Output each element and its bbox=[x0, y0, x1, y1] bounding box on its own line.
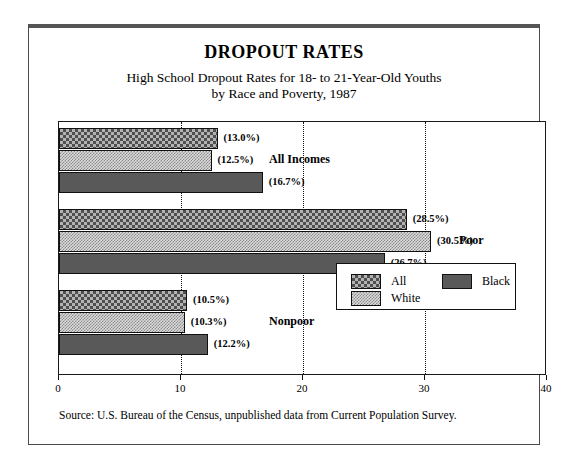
legend-swatch-all bbox=[351, 274, 381, 289]
bar-value-label: (12.2%) bbox=[214, 338, 250, 349]
tick-label-0: 0 bbox=[43, 382, 73, 394]
page-title: DROPOUT RATES bbox=[29, 42, 539, 63]
tick-label-40: 40 bbox=[531, 382, 561, 394]
tick-mark-20 bbox=[302, 375, 303, 380]
chart-legend: All White Black bbox=[336, 263, 516, 310]
bar-poor-all bbox=[59, 209, 407, 230]
bar-all-incomes-all bbox=[59, 128, 218, 149]
tick-label-10: 10 bbox=[165, 382, 195, 394]
chart-subtitle-line-1: High School Dropout Rates for 18- to 21-… bbox=[29, 70, 539, 86]
bar-all-incomes-white bbox=[59, 150, 212, 171]
source-note: Source: U.S. Bureau of the Census, unpub… bbox=[59, 409, 457, 421]
tick-mark-10 bbox=[180, 375, 181, 380]
figure-frame: DROPOUT RATES High School Dropout Rates … bbox=[28, 24, 540, 445]
legend-swatch-white bbox=[351, 291, 381, 306]
bar-value-label: (13.0%) bbox=[224, 132, 260, 143]
group-label-nonpoor: Nonpoor bbox=[269, 314, 314, 329]
group-label-poor: Poor bbox=[459, 233, 484, 248]
legend-label-all: All bbox=[391, 274, 406, 289]
plot-area: (13.0%)(12.5%)(16.7%)All Incomes(28.5%)(… bbox=[58, 121, 546, 375]
tick-mark-40 bbox=[546, 375, 547, 380]
bar-all-incomes-black bbox=[59, 172, 263, 193]
legend-swatch-black bbox=[442, 274, 472, 289]
legend-label-white: White bbox=[391, 291, 420, 306]
bar-poor-white bbox=[59, 231, 431, 252]
bar-value-label: (10.3%) bbox=[191, 316, 227, 327]
bar-value-label: (16.7%) bbox=[269, 176, 305, 187]
bar-nonpoor-all bbox=[59, 290, 187, 311]
legend-label-black: Black bbox=[482, 274, 510, 289]
x-axis-ticks: 010203040 bbox=[58, 375, 546, 395]
bar-value-label: (12.5%) bbox=[218, 154, 254, 165]
bar-nonpoor-black bbox=[59, 334, 208, 355]
bar-nonpoor-white bbox=[59, 312, 185, 333]
chart-subtitle-line-2: by Race and Poverty, 1987 bbox=[29, 86, 539, 102]
group-label-all-incomes: All Incomes bbox=[269, 152, 330, 167]
bar-value-label: (10.5%) bbox=[193, 294, 229, 305]
tick-mark-0 bbox=[58, 375, 59, 380]
tick-label-20: 20 bbox=[287, 382, 317, 394]
tick-mark-30 bbox=[424, 375, 425, 380]
bar-value-label: (28.5%) bbox=[413, 213, 449, 224]
chart-subtitle: High School Dropout Rates for 18- to 21-… bbox=[29, 70, 539, 102]
tick-label-30: 30 bbox=[409, 382, 439, 394]
